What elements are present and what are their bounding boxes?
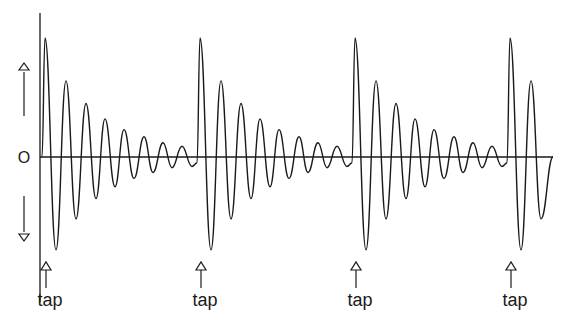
tap-arrow-icon (351, 262, 361, 288)
damped-oscillation-diagram: O tap tap tap tap (0, 0, 561, 326)
tap-label: tap (347, 290, 372, 310)
tap-label: tap (37, 290, 62, 310)
tap-arrow-icon (41, 262, 51, 288)
down-arrow-icon (19, 196, 29, 241)
tap-marker: tap (502, 262, 527, 310)
zero-label: O (18, 149, 30, 166)
tap-label: tap (502, 290, 527, 310)
up-arrow-icon (19, 63, 29, 116)
tap-marker: tap (347, 262, 372, 310)
tap-markers: tap tap tap tap (37, 262, 527, 310)
tap-label: tap (192, 290, 217, 310)
waveform-line (42, 38, 553, 250)
tap-marker: tap (192, 262, 217, 310)
tap-marker: tap (37, 262, 62, 310)
tap-arrow-icon (506, 262, 516, 288)
tap-arrow-icon (196, 262, 206, 288)
